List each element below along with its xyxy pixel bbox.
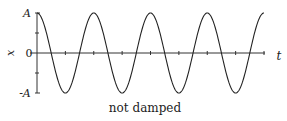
y-label-bottom: -A (19, 87, 31, 100)
chart-container: A 0 -A x t not damped (0, 0, 287, 121)
y-axis-label: x (4, 49, 17, 56)
y-label-top: A (22, 7, 31, 20)
chart-svg: A 0 -A x t not damped (0, 0, 287, 121)
chart-caption: not damped (109, 101, 182, 115)
x-axis-label: t (277, 49, 282, 63)
y-label-zero: 0 (26, 47, 33, 60)
